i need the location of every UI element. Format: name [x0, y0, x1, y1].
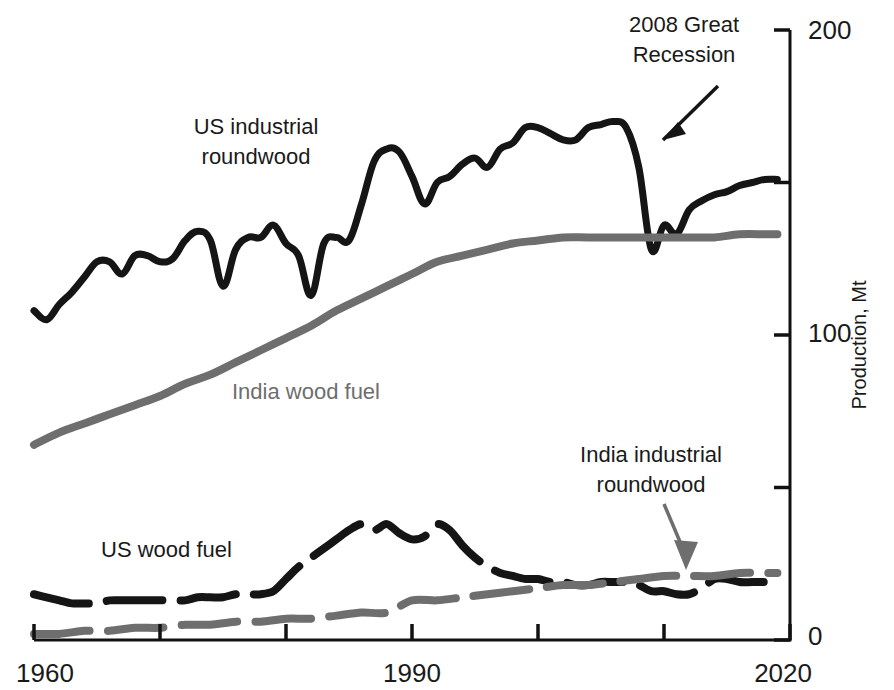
series-label-us-wood-fuel: US wood fuel: [101, 537, 232, 562]
series-path-us-wood-fuel: [34, 524, 777, 604]
x-tick-label-2020: 2020: [754, 658, 812, 688]
annotation-india-industrial-line1: India industrial: [580, 442, 722, 467]
series-path-india-wood-fuel: [34, 234, 777, 445]
annotation-india-industrial-line2: roundwood: [597, 472, 706, 497]
series-path-us-industrial-roundwood: [34, 121, 777, 319]
y-tick-label-0: 0: [808, 621, 822, 651]
annotation-recession-line2: Recession: [633, 42, 736, 67]
annotation-recession-arrow: [663, 86, 718, 140]
x-tick-label-1960: 1960: [16, 658, 74, 688]
annotation-recession-line1: 2008 Great: [629, 12, 739, 37]
series-label-india-wood-fuel: India wood fuel: [232, 379, 380, 404]
series-label-us-industrial-roundwood-line2: roundwood: [202, 144, 311, 169]
y-axis-title: Production, Mt: [848, 280, 870, 409]
y-tick-label-200: 200: [808, 15, 851, 45]
annotation-india-industrial-arrow: [664, 504, 698, 570]
series-label-us-industrial-roundwood-line1: US industrial: [194, 114, 319, 139]
y-tick-label-100: 100: [808, 318, 851, 348]
chart-figure: 1960 1990 2020 0 100 200 Production, Mt …: [0, 0, 894, 690]
x-tick-label-1990: 1990: [383, 658, 441, 688]
chart-canvas: 1960 1990 2020 0 100 200 Production, Mt …: [0, 0, 894, 690]
